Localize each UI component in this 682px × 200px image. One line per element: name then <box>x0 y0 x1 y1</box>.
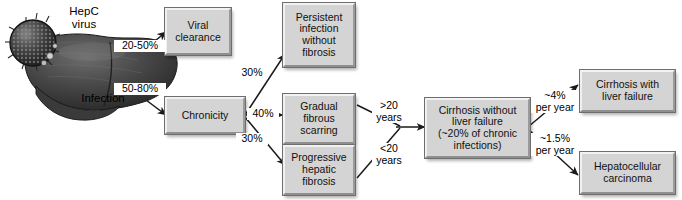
edge-label-chronicity-to-persistent: 30% <box>236 67 268 79</box>
edge-label-chronicity-to-gradual: 40% <box>247 108 279 120</box>
node-cirrhosis-without-liver-failure-label: Cirrhosis without liver failure (~20% of… <box>435 105 520 152</box>
node-hepatocellular-carcinoma-label: Hepatocellular carcinoma <box>591 161 664 185</box>
node-gradual-fibrous-scarring[interactable]: Gradual fibrous scarring <box>283 94 355 144</box>
node-cirrhosis-without-liver-failure[interactable]: Cirrhosis without liver failure (~20% of… <box>425 98 530 158</box>
node-hepatocellular-carcinoma[interactable]: Hepatocellular carcinoma <box>580 152 675 194</box>
node-cirrhosis-with-liver-failure-label: Cirrhosis with liver failure <box>593 79 662 103</box>
node-progressive-hepatic-fibrosis[interactable]: Progressive hepatic fibrosis <box>283 145 355 195</box>
node-cirrhosis-with-liver-failure[interactable]: Cirrhosis with liver failure <box>580 70 675 112</box>
edge-label-chronicity-to-progressive: 30% <box>236 133 268 145</box>
edge-chronicity-to-persistent <box>245 54 285 115</box>
node-progressive-hepatic-fibrosis-label: Progressive hepatic fibrosis <box>288 152 349 187</box>
virus-label: HepC virus <box>48 5 120 31</box>
node-gradual-fibrous-scarring-label: Gradual fibrous scarring <box>297 101 340 136</box>
node-persistent-infection[interactable]: Persistent infection without fibrosis <box>283 3 355 67</box>
edge-label-cirrhosis-to-liver-failure: ~4% per year <box>531 90 579 113</box>
edge-label-infection-to-clearance: 20-50% <box>114 40 166 52</box>
node-persistent-infection-label: Persistent infection without fibrosis <box>293 12 346 59</box>
edge-label-infection-to-chronicity: 50-80% <box>114 83 166 95</box>
flowchart-canvas: HepC virus Infection Viral clearance Chr… <box>0 0 682 200</box>
node-viral-clearance[interactable]: Viral clearance <box>165 8 231 55</box>
node-chronicity[interactable]: Chronicity <box>165 97 245 134</box>
edge-label-gradual-to-cirrhosis: >20 years <box>372 100 406 123</box>
edge-label-progressive-to-cirrhosis: <20 years <box>372 143 406 166</box>
node-viral-clearance-label: Viral clearance <box>172 20 224 44</box>
node-chronicity-label: Chronicity <box>179 110 232 122</box>
edge-label-cirrhosis-to-hcc: ~1.5% per year <box>531 133 579 156</box>
